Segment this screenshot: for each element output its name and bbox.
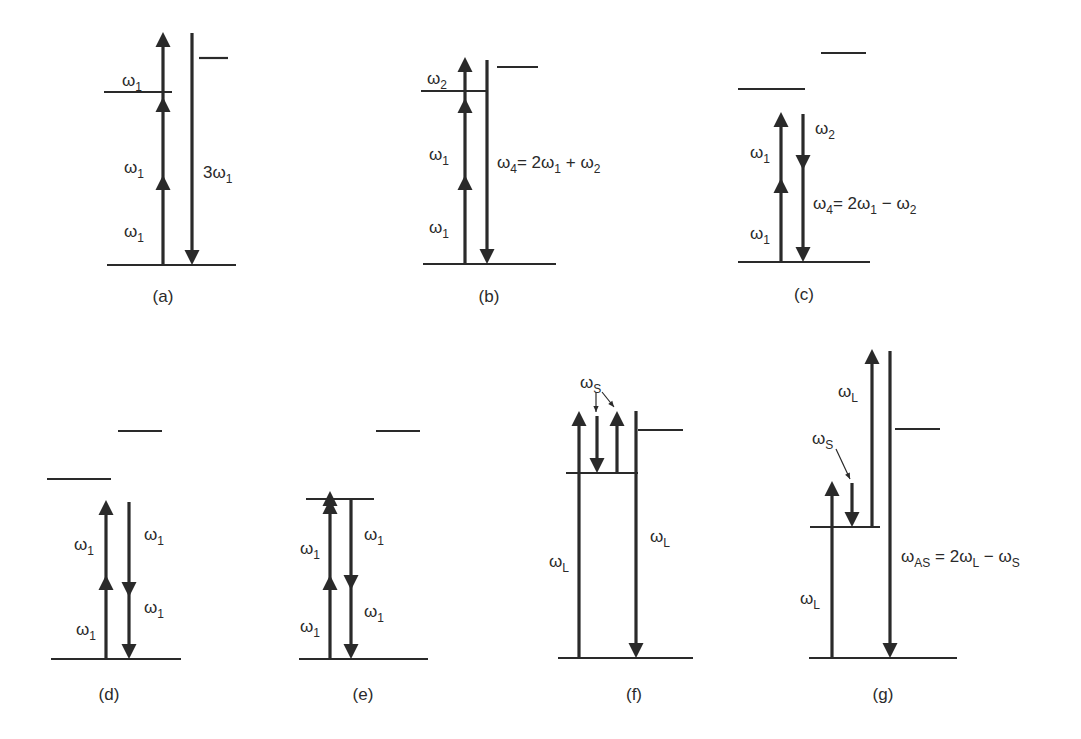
- frequency-label: ωS: [812, 429, 833, 452]
- arrowhead-up-icon: [156, 32, 171, 47]
- absorption-arrow: [156, 32, 171, 265]
- frequency-label: ωL: [838, 382, 858, 405]
- arrowhead-up-icon: [99, 575, 114, 590]
- arrowhead-down-icon: [796, 155, 811, 170]
- panel-b: ω2ω1ω1ω4= 2ω1 + ω2(b): [421, 57, 601, 306]
- frequency-label: ω1: [144, 525, 164, 548]
- absorption-arrow: [825, 481, 840, 658]
- frequency-label: ω1: [429, 218, 449, 241]
- frequency-label: ωL: [549, 552, 569, 575]
- arrowhead-down-icon: [629, 643, 644, 658]
- arrowhead-down-icon: [480, 249, 495, 264]
- frequency-label: ω1: [300, 617, 320, 640]
- emission-arrow: [185, 33, 200, 265]
- arrowhead-up-icon: [156, 97, 171, 112]
- frequency-label: ωS: [580, 373, 601, 396]
- panel-caption-f: (f): [626, 685, 642, 704]
- pointer-arrow: [836, 449, 850, 479]
- arrowhead-down-icon: [122, 644, 137, 659]
- panel-c: ω1ω2ω1ω4= 2ω1 − ω2(c): [738, 53, 917, 304]
- frequency-label: ω1: [429, 145, 449, 168]
- frequency-label: ω1: [750, 143, 770, 166]
- panel-caption-c: (c): [794, 285, 814, 304]
- arrowhead-up-icon: [323, 575, 338, 590]
- frequency-label: ωL: [650, 527, 670, 550]
- arrowhead-down-icon: [883, 643, 898, 658]
- arrowhead-up-icon: [572, 411, 587, 426]
- panel-caption-b: (b): [479, 287, 500, 306]
- frequency-label: ω1: [74, 535, 94, 558]
- frequency-label: ω1: [364, 602, 384, 625]
- arrowhead-down-icon: [122, 582, 137, 597]
- pointer-arrow: [602, 392, 614, 407]
- absorption-arrow: [323, 491, 338, 659]
- arrowhead-up-icon: [610, 411, 625, 426]
- arrowhead-down-icon: [845, 512, 860, 527]
- panel-caption-d: (d): [99, 685, 120, 704]
- emission-arrow: [629, 411, 644, 658]
- frequency-label: ω2: [815, 119, 835, 142]
- frequency-label: ω4= 2ω1 − ω2: [813, 194, 917, 217]
- arrowhead-up-icon: [458, 98, 473, 113]
- frequency-label: 3ω1: [203, 163, 233, 186]
- arrowhead-down-icon: [344, 575, 359, 590]
- frequency-label: ωAS = 2ωL − ωS: [901, 547, 1020, 570]
- frequency-label: ω1: [122, 71, 142, 94]
- emission-arrow: [590, 416, 605, 473]
- frequency-label: ω2: [427, 69, 447, 92]
- emission-arrow: [122, 502, 137, 659]
- frequency-label: ω1: [124, 158, 144, 181]
- pointer-arrowhead-icon: [593, 406, 598, 412]
- panel-f: ωSωLωL(f): [549, 373, 693, 704]
- panel-d: ω1ω1ω1ω1(d): [47, 431, 181, 704]
- arrowhead-up-icon: [825, 481, 840, 496]
- arrowhead-up-icon: [774, 178, 789, 193]
- arrowhead-down-icon: [590, 458, 605, 473]
- frequency-label: ω4= 2ω1 + ω2: [497, 153, 601, 176]
- arrowhead-up-icon: [458, 175, 473, 190]
- absorption-arrow: [458, 57, 473, 264]
- arrowhead-down-icon: [185, 250, 200, 265]
- emission-arrow: [796, 114, 811, 262]
- figure-canvas: ω1ω1ω13ω1(a)ω2ω1ω1ω4= 2ω1 + ω2(b)ω1ω2ω1ω…: [0, 0, 1081, 739]
- panel-caption-g: (g): [873, 685, 894, 704]
- emission-arrow: [344, 499, 359, 659]
- panel-a: ω1ω1ω13ω1(a): [104, 32, 236, 306]
- absorption-arrow: [572, 411, 587, 658]
- energy-level-diagram-figure: ω1ω1ω13ω1(a)ω2ω1ω1ω4= 2ω1 + ω2(b)ω1ω2ω1ω…: [0, 0, 1081, 739]
- frequency-label: ω1: [124, 222, 144, 245]
- absorption-arrow: [99, 500, 114, 659]
- frequency-label: ω1: [750, 224, 770, 247]
- arrowhead-up-icon: [99, 500, 114, 515]
- absorption-arrow: [865, 349, 880, 527]
- arrowhead-down-icon: [344, 644, 359, 659]
- frequency-label: ωL: [800, 589, 820, 612]
- panel-caption-a: (a): [153, 287, 174, 306]
- panel-e: ω1ω1ω1ω1(e): [299, 431, 428, 704]
- panel-caption-e: (e): [353, 685, 374, 704]
- emission-arrow: [845, 483, 860, 527]
- frequency-label: ω1: [144, 598, 164, 621]
- arrowhead-up-icon: [865, 349, 880, 364]
- frequency-label: ω1: [76, 620, 96, 643]
- arrowhead-up-icon: [774, 112, 789, 127]
- arrowhead-down-icon: [796, 247, 811, 262]
- emission-arrow: [883, 351, 898, 658]
- absorption-arrow: [610, 411, 625, 473]
- frequency-label: ω1: [300, 539, 320, 562]
- absorption-arrow: [774, 112, 789, 262]
- panel-g: ωLωSωLωAS = 2ωL − ωS(g): [800, 349, 1020, 704]
- frequency-label: ω1: [364, 525, 384, 548]
- arrowhead-up-icon: [458, 57, 473, 72]
- arrowhead-up-icon: [156, 175, 171, 190]
